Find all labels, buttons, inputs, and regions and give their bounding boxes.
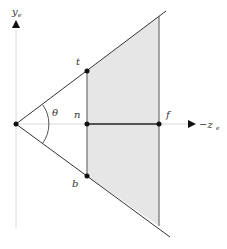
far-label: f	[165, 109, 172, 120]
z-axis-arrow-icon	[188, 120, 196, 128]
bottom-point	[85, 174, 90, 179]
view-frustum-diagram: y e −z e θ t n b f	[0, 0, 227, 249]
near-point	[85, 122, 90, 127]
z-axis-label: −z	[199, 119, 213, 130]
near-label: n	[74, 109, 80, 120]
far-point	[157, 122, 162, 127]
apex-point	[14, 122, 19, 127]
y-axis-arrow-icon	[12, 20, 20, 28]
theta-label: θ	[52, 107, 58, 118]
top-point	[85, 69, 90, 74]
top-label: t	[76, 56, 81, 67]
z-axis-subscript: e	[216, 124, 220, 131]
frustum-region	[87, 16, 159, 226]
y-axis-label: y	[11, 6, 18, 17]
bottom-label: b	[72, 178, 78, 189]
y-axis-subscript: e	[18, 11, 22, 18]
